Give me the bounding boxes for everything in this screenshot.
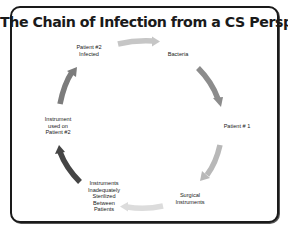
node-line: Instruments [82,180,126,187]
node-surgical-instruments: Surgical Instruments [170,192,210,205]
node-line: Patient # 1 [218,123,256,130]
node-line: Instruments [170,199,210,206]
node-line: Bacteria [160,51,196,58]
node-line: Between [82,200,126,207]
node-instruments-inadequately-sterilized: Instruments Inadequately Sterilized Betw… [82,180,126,213]
node-line: Patients [82,206,126,213]
node-instrument-used-on-patient-2: Instrument used on Patient #2 [38,116,78,136]
arrow-instrument-used-to-patient2 [60,67,77,104]
node-line: Surgical [170,192,210,199]
node-line: Instrument [38,116,78,123]
node-line: Patient #2 [38,129,78,136]
node-line: Inadequately [82,187,126,194]
arrow-patient2-to-bacteria [118,37,160,47]
node-line: Sterilized [82,193,126,200]
arrow-patient1-to-surgical [200,145,220,181]
node-line: used on [38,123,78,130]
node-patient-2-infected: Patient #2 Infected [72,44,106,57]
node-patient-1: Patient # 1 [218,123,256,130]
node-line: Patient #2 [72,44,106,51]
arrow-surgical-to-inadequately-sterilized [120,202,163,212]
arrow-inadequately-sterilized-to-instrument-used [55,145,80,182]
arrow-bacteria-to-patient1 [198,68,223,107]
node-line: Infected [72,51,106,58]
node-bacteria: Bacteria [160,51,196,58]
